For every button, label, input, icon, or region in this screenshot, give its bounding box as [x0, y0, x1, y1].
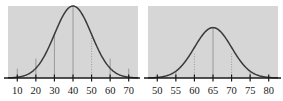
left-chart-svg: 10203040506070	[0, 0, 142, 101]
chart-left-normal-curve: 10203040506070	[0, 0, 142, 101]
axis-tick-label: 50	[86, 85, 97, 96]
axis-tick-label: 55	[171, 85, 182, 96]
right-chart-svg: 50556065707580	[142, 0, 283, 101]
axis-tick-label: 10	[12, 85, 23, 96]
axis-tick-label: 70	[226, 85, 237, 96]
axis-tick-label: 80	[263, 85, 274, 96]
right-axis-tick-labels: 50556065707580	[152, 85, 274, 96]
axis-tick-label: 30	[49, 85, 60, 96]
figure-root: 10203040506070 50556065707580	[0, 0, 283, 101]
axis-tick-label: 70	[123, 85, 134, 96]
axis-tick-label: 20	[31, 85, 42, 96]
axis-tick-label: 50	[152, 85, 163, 96]
axis-tick-label: 60	[189, 85, 200, 96]
axis-tick-label: 60	[105, 85, 116, 96]
axis-tick-label: 75	[245, 85, 256, 96]
axis-tick-label: 40	[68, 85, 79, 96]
left-axis-tick-labels: 10203040506070	[12, 85, 134, 96]
axis-tick-label: 65	[208, 85, 219, 96]
chart-right-normal-curve: 50556065707580	[142, 0, 283, 101]
